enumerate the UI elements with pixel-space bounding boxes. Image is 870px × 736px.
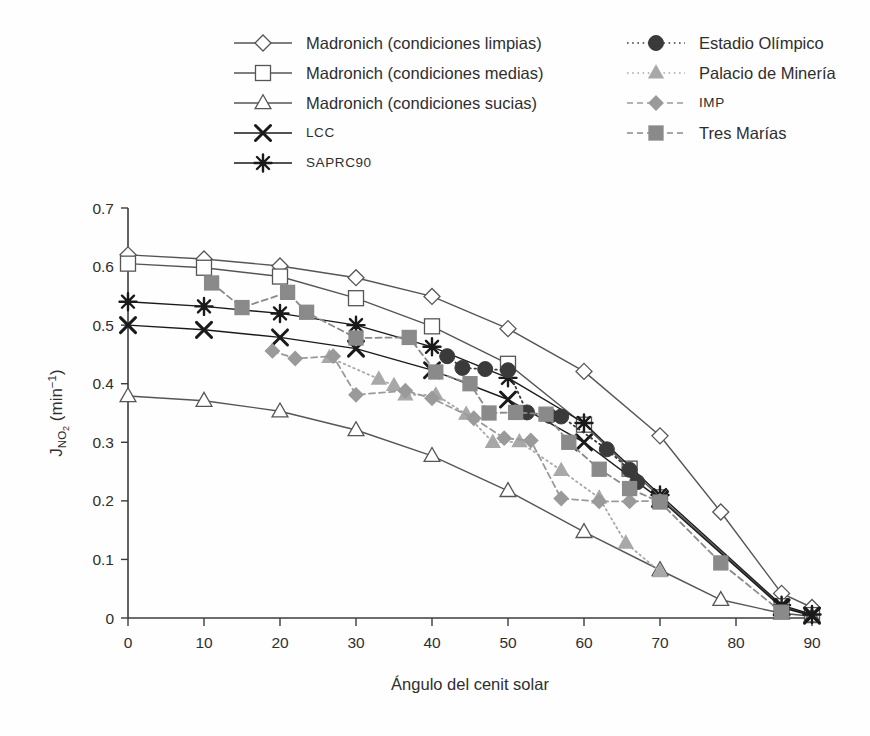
y-tick-label: 0.7	[92, 200, 114, 217]
chart-plot-area: 00.10.20.30.40.50.60.7010203040506070809…	[0, 0, 870, 736]
x-tick-label: 20	[271, 634, 289, 651]
figure-root: Madronich (condiciones limpias)Madronich…	[0, 0, 870, 736]
x-tick-label: 30	[347, 634, 365, 651]
svg-text:JNO2 (min−1): JNO2 (min−1)	[46, 369, 71, 456]
x-axis-title: Ángulo del cenit solar	[391, 675, 549, 693]
x-tick-label: 70	[651, 634, 669, 651]
y-tick-label: 0.5	[92, 317, 114, 334]
chart-series	[121, 318, 820, 624]
x-tick-label: 40	[423, 634, 441, 651]
x-tick-label: 50	[499, 634, 517, 651]
x-tick-label: 60	[575, 634, 593, 651]
y-tick-label: 0.3	[92, 434, 114, 451]
x-tick-label: 10	[195, 634, 213, 651]
y-tick-label: 0.2	[92, 492, 114, 509]
y-axis-title: JNO2 (min−1)	[46, 369, 71, 456]
y-tick-label: 0	[105, 610, 114, 627]
chart-series	[322, 350, 667, 577]
y-tick-label: 0.4	[92, 375, 114, 392]
x-tick-label: 80	[727, 634, 745, 651]
y-tick-label: 0.6	[92, 258, 114, 275]
y-tick-label: 0.1	[92, 551, 114, 568]
x-tick-label: 0	[124, 634, 133, 651]
x-tick-label: 90	[803, 634, 821, 651]
chart-series	[120, 293, 821, 623]
